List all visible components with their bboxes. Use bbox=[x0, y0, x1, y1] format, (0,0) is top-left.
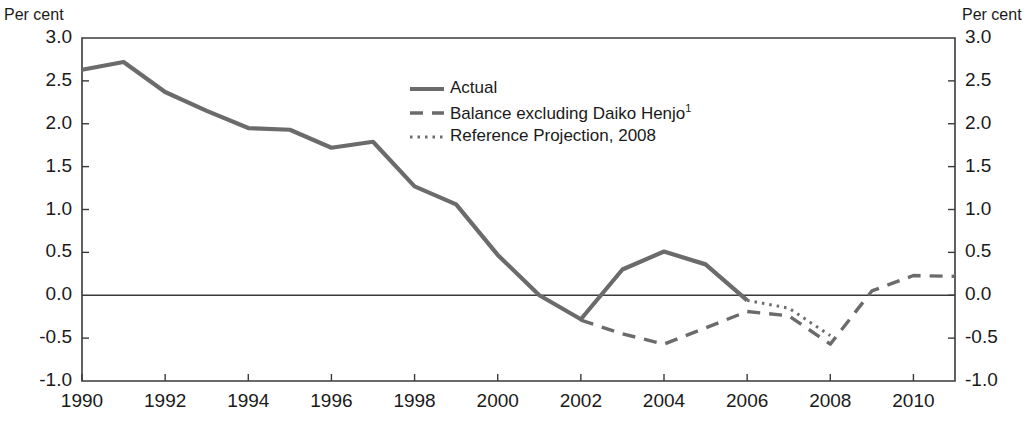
y-tick-label-left: 1.5 bbox=[14, 155, 72, 177]
legend-label-2: Balance excluding Daiko Henjo1 bbox=[450, 102, 691, 124]
legend-label-1: Actual bbox=[450, 78, 497, 98]
y-tick-label-left: 0.5 bbox=[14, 240, 72, 262]
series-line-2 bbox=[581, 276, 955, 345]
y-tick-label-right: 1.5 bbox=[965, 155, 1023, 177]
x-tick-label: 2008 bbox=[790, 390, 870, 412]
x-tick-label: 2002 bbox=[541, 390, 621, 412]
chart-container: Per cent Per cent 3.03.02.52.52.02.01.51… bbox=[0, 0, 1029, 431]
x-tick-label: 2004 bbox=[624, 390, 704, 412]
series-line-1 bbox=[82, 62, 747, 319]
x-tick-label: 1996 bbox=[291, 390, 371, 412]
y-tick-label-left: 1.0 bbox=[14, 198, 72, 220]
y-tick-label-right: 2.0 bbox=[965, 112, 1023, 134]
y-tick-label-right: -0.5 bbox=[965, 326, 1023, 348]
legend-label-3: Reference Projection, 2008 bbox=[450, 126, 656, 146]
x-tick-label: 2006 bbox=[707, 390, 787, 412]
y-tick-label-right: 2.5 bbox=[965, 69, 1023, 91]
x-tick-label: 2010 bbox=[873, 390, 953, 412]
series-line-3 bbox=[747, 300, 830, 335]
y-tick-label-left: 3.0 bbox=[14, 26, 72, 48]
y-tick-label-right: 0.0 bbox=[965, 283, 1023, 305]
chart-plot-area bbox=[0, 0, 1029, 431]
y-tick-label-right: -1.0 bbox=[965, 369, 1023, 391]
y-tick-label-left: -1.0 bbox=[14, 369, 72, 391]
y-tick-label-left: 2.0 bbox=[14, 112, 72, 134]
legend-footnote-marker: 1 bbox=[685, 102, 691, 114]
x-tick-label: 2000 bbox=[458, 390, 538, 412]
y-tick-label-right: 1.0 bbox=[965, 198, 1023, 220]
y-tick-label-left: -0.5 bbox=[14, 326, 72, 348]
x-tick-label: 1992 bbox=[125, 390, 205, 412]
y-tick-label-right: 3.0 bbox=[965, 26, 1023, 48]
y-tick-label-left: 0.0 bbox=[14, 283, 72, 305]
x-tick-label: 1998 bbox=[375, 390, 455, 412]
y-tick-label-left: 2.5 bbox=[14, 69, 72, 91]
x-tick-label: 1990 bbox=[42, 390, 122, 412]
y-tick-label-right: 0.5 bbox=[965, 240, 1023, 262]
x-tick-label: 1994 bbox=[208, 390, 288, 412]
plot-frame bbox=[82, 38, 955, 381]
